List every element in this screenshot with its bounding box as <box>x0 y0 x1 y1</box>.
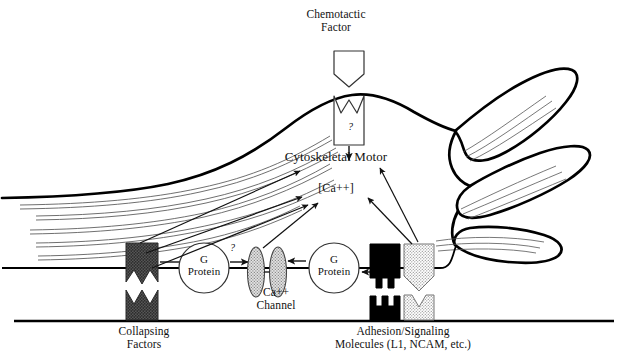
label-question-gprotein: ? <box>230 242 235 253</box>
cam-ligand-stippled <box>404 295 434 320</box>
filopodium-lower <box>436 227 562 263</box>
adhesion-ligand-black <box>370 296 400 320</box>
adhesion-receptor-black <box>370 244 400 288</box>
collapsing-receptor <box>126 243 158 284</box>
label-g-protein-left: G Protein <box>172 253 236 278</box>
arrow-channel-to-calcium <box>263 203 318 248</box>
chemotactic-ligand <box>334 51 364 87</box>
cam-receptor-stippled <box>404 244 434 291</box>
collapsing-ligand <box>126 290 158 320</box>
label-calcium-channel: Ca++ Channel <box>232 286 320 312</box>
label-cytoskeletal-motor: Cytoskeletal Motor <box>262 150 410 165</box>
growth-cone-diagram: Chemotactic Factor Cytoskeletal Motor [C… <box>0 0 626 359</box>
label-adhesion-molecules: Adhesion/Signaling Molecules (L1, NCAM, … <box>308 325 498 351</box>
label-question-receptor: ? <box>348 121 353 132</box>
label-g-protein-right: G Protein <box>302 253 366 278</box>
label-calcium-concentration: [Ca++] <box>292 182 380 195</box>
label-chemotactic-factor: Chemotactic Factor <box>276 8 396 34</box>
label-collapsing-factors: Collapsing Factors <box>74 325 214 351</box>
